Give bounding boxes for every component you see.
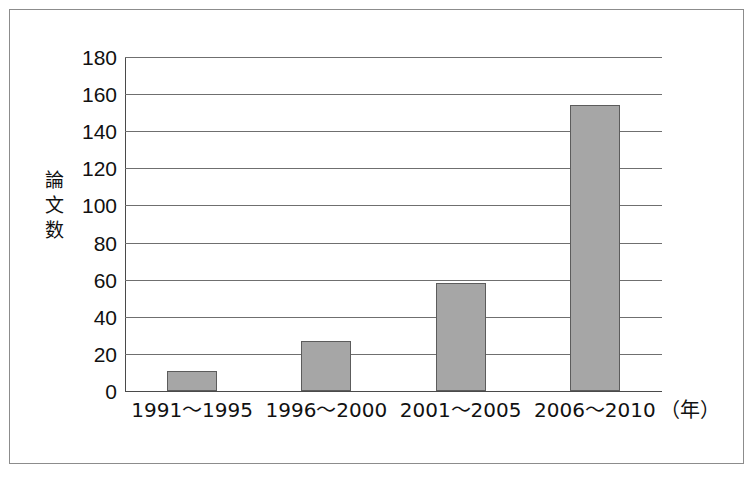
plot-area xyxy=(125,57,662,391)
bar-chart: 論文数 020406080100120140160180 1991〜199519… xyxy=(0,0,753,487)
bar xyxy=(436,283,486,391)
gridline-180 xyxy=(125,57,662,58)
y-tick-label: 40 xyxy=(57,307,117,328)
y-tick-label: 100 xyxy=(57,195,117,216)
y-tick-label: 180 xyxy=(57,47,117,68)
y-tick-label: 0 xyxy=(57,381,117,402)
y-tick-label: 80 xyxy=(57,233,117,254)
y-tick-label: 120 xyxy=(57,158,117,179)
y-tick-label: 140 xyxy=(57,121,117,142)
gridline-160 xyxy=(125,94,662,95)
bar xyxy=(570,105,620,391)
bar xyxy=(301,341,351,391)
gridline-0 xyxy=(125,391,662,392)
y-axis-tick-labels: 020406080100120140160180 xyxy=(55,0,117,487)
x-tick-label: 2006〜2010 xyxy=(515,398,675,422)
x-axis-unit-label: （年） xyxy=(660,398,720,422)
y-tick-label: 20 xyxy=(57,344,117,365)
y-tick-label: 160 xyxy=(57,84,117,105)
bar xyxy=(167,371,217,391)
y-tick-label: 60 xyxy=(57,270,117,291)
